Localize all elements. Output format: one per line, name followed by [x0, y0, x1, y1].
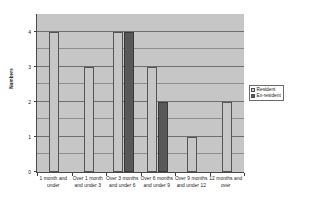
y-axis-tick-label: 1: [28, 134, 31, 139]
plot-area: [36, 14, 244, 173]
x-axis-tick-mark: [244, 173, 245, 176]
y-axis-tick-label: 2: [28, 99, 31, 104]
y-axis-tick-label: 0: [28, 170, 31, 175]
bar-ex-resident: [124, 32, 134, 172]
bar-resident: [84, 67, 94, 172]
x-axis-category-label: Over 9 months and under 12: [174, 176, 209, 189]
bar-resident: [49, 32, 59, 172]
bar-resident: [113, 32, 123, 172]
y-axis-tick-labels: 01234: [17, 14, 31, 172]
bars-layer: [37, 14, 244, 172]
bar-resident: [222, 102, 232, 172]
bar-resident: [187, 137, 197, 172]
chart-legend: ResidentEx-resident: [249, 85, 284, 101]
x-axis-category-label: 1 month and under: [36, 176, 71, 189]
y-axis-title: Numbers: [9, 51, 14, 107]
y-axis-tick-label: 3: [28, 64, 31, 69]
legend-item-label: Ex-resident: [257, 93, 281, 98]
bar-resident: [147, 67, 157, 172]
x-axis-category-label: 12 months and over: [209, 176, 244, 189]
legend-swatch-icon: [251, 88, 255, 92]
y-axis-tick-label: 4: [28, 29, 31, 34]
legend-item-ex-resident[interactable]: Ex-resident: [251, 93, 281, 98]
x-axis-category-label: Over 6 months and under 9: [140, 176, 175, 189]
bar-chart: Numbers 01234 1 month and underOver 1 mo…: [0, 0, 313, 214]
x-axis-category-label: Over 1 month and under 3: [71, 176, 106, 189]
x-axis-category-labels: 1 month and underOver 1 month and under …: [36, 176, 243, 214]
x-axis-category-label: Over 3 months and under 6: [105, 176, 140, 189]
legend-item-label: Resident: [257, 87, 276, 92]
legend-swatch-icon: [251, 94, 255, 98]
bar-ex-resident: [158, 102, 168, 172]
legend-item-resident[interactable]: Resident: [251, 87, 281, 92]
